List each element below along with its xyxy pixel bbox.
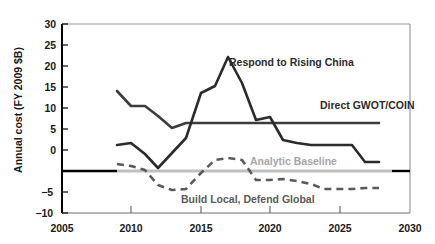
chart-container: Annual cost (FY 2009 $B) 30 25 20 15 10 … <box>0 0 435 244</box>
y-tick-label-25: 25 <box>30 39 56 51</box>
x-tick-label-2005: 2005 <box>42 222 82 234</box>
y-tick-label-20: 20 <box>30 60 56 72</box>
y-tick-label-minus10: −10 <box>27 207 53 219</box>
series-build-local-defend-global <box>117 158 379 190</box>
y-tick-label-15: 15 <box>30 81 56 93</box>
x-tick-label-2020: 2020 <box>250 222 290 234</box>
y-tick-label-0: 0 <box>30 144 56 156</box>
y-tick-label-10: 10 <box>30 102 56 114</box>
y-tick-label-5: 5 <box>30 123 56 135</box>
y-tick-label-minus5: −5 <box>27 186 53 198</box>
y-axis-title: Annual cost (FY 2009 $B) <box>12 30 24 190</box>
series-label-respond-to-rising-china: Respond to Rising China <box>229 56 354 68</box>
series-label-build-local-defend-global: Build Local, Defend Global <box>181 193 315 205</box>
y-tick-label-30: 30 <box>30 18 56 30</box>
x-tick-label-2030: 2030 <box>390 222 430 234</box>
x-tick-label-2025: 2025 <box>320 222 360 234</box>
x-tick-marks <box>131 206 340 213</box>
series-label-direct-gwot-coin: Direct GWOT/COIN <box>320 99 415 111</box>
chart-plot-svg <box>0 0 435 244</box>
x-tick-label-2015: 2015 <box>181 222 221 234</box>
x-tick-label-2010: 2010 <box>111 222 151 234</box>
series-respond-to-rising-china <box>117 57 379 168</box>
series-label-analytic-baseline: Analytic Baseline <box>250 155 337 167</box>
